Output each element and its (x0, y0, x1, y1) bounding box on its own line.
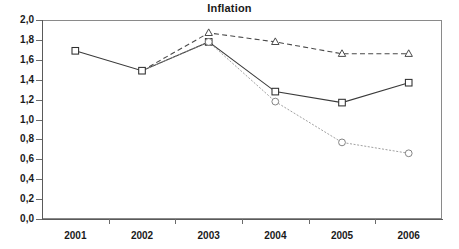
series-layer (0, 0, 459, 249)
data-point-circle (405, 150, 412, 157)
data-point-square (405, 79, 412, 86)
data-point-square (139, 67, 146, 74)
data-point-square (339, 99, 346, 106)
data-point-circle (205, 39, 212, 46)
data-point-square (272, 88, 279, 95)
data-point-square (72, 48, 79, 55)
data-point-circle (339, 139, 346, 146)
inflation-chart: Inflation 0,00,20,40,60,81,01,21,41,61,8… (0, 0, 459, 249)
series-line-circle (142, 42, 409, 153)
data-point-circle (272, 98, 279, 105)
data-point-triangle (205, 29, 212, 36)
series-line-square (75, 42, 408, 103)
data-point-triangle (405, 50, 412, 57)
